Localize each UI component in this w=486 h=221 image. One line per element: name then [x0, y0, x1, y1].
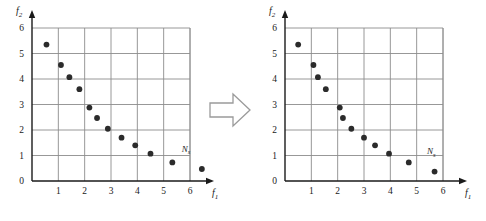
x-tick-label: 1 — [309, 186, 314, 196]
scatter-plot-left: 1234560123456 f1f2Ns — [0, 0, 218, 221]
data-point — [432, 169, 438, 175]
y-tick-label: 3 — [272, 100, 277, 110]
y-tick-label: 5 — [272, 49, 277, 59]
data-point — [372, 142, 378, 148]
arrow-right-icon — [207, 88, 253, 132]
data-point — [77, 86, 83, 92]
data-point — [66, 74, 72, 80]
data-point — [94, 115, 100, 121]
data-point — [132, 142, 138, 148]
data-point — [340, 115, 346, 121]
y-tick-label: 6 — [19, 23, 24, 33]
y-tick-label: 4 — [19, 74, 24, 84]
x-tick-label: 4 — [388, 186, 393, 196]
data-point — [315, 74, 321, 80]
x-tick-label: 3 — [109, 186, 114, 196]
chart-panel-right: 1234560123456 f1f2Ns — [253, 0, 471, 221]
data-point — [348, 126, 354, 132]
y-tick-label: 2 — [19, 125, 24, 135]
data-point — [105, 126, 111, 132]
y-tick-label: 4 — [272, 74, 277, 84]
data-point — [199, 166, 205, 172]
chart-panel-left: 1234560123456 f1f2Ns — [0, 0, 218, 221]
y-tick-label: 2 — [272, 125, 277, 135]
data-point — [361, 135, 367, 141]
x-tick-label: 2 — [335, 186, 340, 196]
figure-root: 1234560123456 f1f2Ns 1234560123456 f1f2N… — [0, 0, 486, 221]
data-point — [87, 105, 93, 111]
x-tick-label: 2 — [82, 186, 87, 196]
data-point — [323, 86, 329, 92]
data-point — [169, 159, 175, 165]
scatter-plot-right: 1234560123456 f1f2Ns — [253, 0, 471, 221]
data-point — [386, 151, 392, 157]
y-tick-label: 3 — [19, 100, 24, 110]
data-point — [148, 151, 154, 157]
x-tick-label: 3 — [362, 186, 367, 196]
data-point — [337, 105, 343, 111]
transformation-arrow — [207, 88, 253, 132]
y-tick-label: 0 — [19, 176, 24, 186]
x-tick-label: 5 — [414, 186, 419, 196]
x-axis-label-subscript: 1 — [215, 193, 218, 201]
data-point — [44, 42, 50, 48]
y-tick-label: 0 — [272, 176, 277, 186]
x-tick-label: 1 — [56, 186, 61, 196]
x-tick-label: 6 — [188, 186, 193, 196]
x-tick-label: 6 — [441, 186, 446, 196]
y-tick-label: 6 — [272, 23, 277, 33]
data-point — [311, 62, 317, 68]
y-tick-label: 1 — [272, 151, 277, 161]
y-axis-label-subscript: 2 — [19, 11, 23, 19]
x-axis-label-subscript: 1 — [468, 193, 471, 201]
data-point — [119, 135, 125, 141]
data-point — [406, 159, 412, 165]
data-point — [58, 62, 64, 68]
y-tick-label: 1 — [19, 151, 24, 161]
data-point — [295, 42, 301, 48]
y-tick-label: 5 — [19, 49, 24, 59]
x-tick-label: 5 — [161, 186, 166, 196]
y-axis-label-subscript: 2 — [272, 11, 276, 19]
x-tick-label: 4 — [135, 186, 140, 196]
